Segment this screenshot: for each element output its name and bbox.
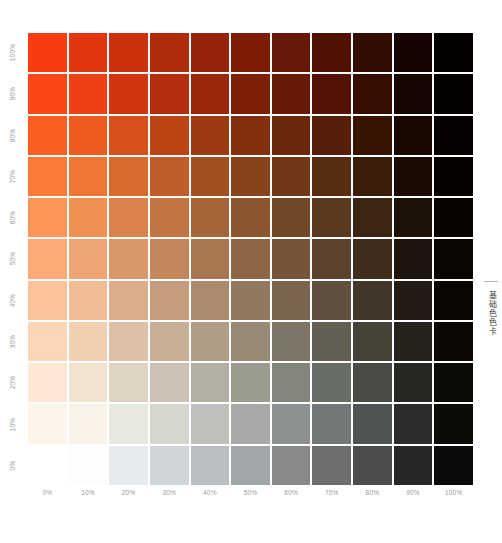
swatch-cell[interactable]: [231, 198, 270, 237]
swatch-cell[interactable]: [394, 74, 433, 113]
swatch-cell[interactable]: [28, 281, 67, 320]
swatch-cell[interactable]: [69, 404, 108, 443]
swatch-cell[interactable]: [109, 322, 148, 361]
swatch-cell[interactable]: [434, 198, 473, 237]
swatch-cell[interactable]: [231, 116, 270, 155]
swatch-cell[interactable]: [272, 116, 311, 155]
swatch-cell[interactable]: [109, 157, 148, 196]
swatch-cell[interactable]: [191, 198, 230, 237]
swatch-cell[interactable]: [394, 322, 433, 361]
swatch-cell[interactable]: [28, 446, 67, 485]
swatch-cell[interactable]: [191, 322, 230, 361]
swatch-cell[interactable]: [109, 363, 148, 402]
swatch-cell[interactable]: [109, 239, 148, 278]
swatch-cell[interactable]: [28, 404, 67, 443]
swatch-cell[interactable]: [353, 74, 392, 113]
swatch-cell[interactable]: [109, 281, 148, 320]
swatch-cell[interactable]: [394, 198, 433, 237]
swatch-cell[interactable]: [69, 363, 108, 402]
swatch-cell[interactable]: [69, 116, 108, 155]
swatch-cell[interactable]: [109, 116, 148, 155]
swatch-cell[interactable]: [434, 157, 473, 196]
swatch-cell[interactable]: [353, 446, 392, 485]
swatch-cell[interactable]: [312, 281, 351, 320]
swatch-cell[interactable]: [231, 446, 270, 485]
swatch-cell[interactable]: [150, 74, 189, 113]
swatch-cell[interactable]: [353, 198, 392, 237]
swatch-cell[interactable]: [150, 116, 189, 155]
swatch-cell[interactable]: [353, 281, 392, 320]
swatch-cell[interactable]: [272, 74, 311, 113]
swatch-cell[interactable]: [353, 116, 392, 155]
swatch-cell[interactable]: [231, 157, 270, 196]
swatch-cell[interactable]: [312, 33, 351, 72]
swatch-cell[interactable]: [191, 281, 230, 320]
swatch-cell[interactable]: [353, 157, 392, 196]
swatch-cell[interactable]: [353, 363, 392, 402]
swatch-cell[interactable]: [150, 281, 189, 320]
swatch-cell[interactable]: [272, 363, 311, 402]
swatch-cell[interactable]: [312, 363, 351, 402]
swatch-cell[interactable]: [69, 74, 108, 113]
swatch-cell[interactable]: [312, 116, 351, 155]
swatch-cell[interactable]: [394, 239, 433, 278]
swatch-cell[interactable]: [353, 322, 392, 361]
swatch-cell[interactable]: [69, 198, 108, 237]
swatch-cell[interactable]: [394, 157, 433, 196]
swatch-cell[interactable]: [353, 33, 392, 72]
swatch-cell[interactable]: [191, 33, 230, 72]
swatch-cell[interactable]: [28, 33, 67, 72]
swatch-cell[interactable]: [312, 239, 351, 278]
swatch-cell[interactable]: [28, 157, 67, 196]
swatch-cell[interactable]: [434, 404, 473, 443]
swatch-cell[interactable]: [69, 322, 108, 361]
swatch-cell[interactable]: [191, 404, 230, 443]
swatch-cell[interactable]: [353, 239, 392, 278]
swatch-cell[interactable]: [434, 74, 473, 113]
swatch-cell[interactable]: [150, 363, 189, 402]
swatch-cell[interactable]: [394, 281, 433, 320]
swatch-cell[interactable]: [28, 198, 67, 237]
swatch-cell[interactable]: [150, 157, 189, 196]
swatch-cell[interactable]: [231, 74, 270, 113]
swatch-cell[interactable]: [272, 239, 311, 278]
swatch-cell[interactable]: [272, 157, 311, 196]
swatch-cell[interactable]: [69, 446, 108, 485]
swatch-cell[interactable]: [394, 446, 433, 485]
swatch-cell[interactable]: [150, 198, 189, 237]
swatch-cell[interactable]: [434, 33, 473, 72]
swatch-cell[interactable]: [272, 446, 311, 485]
swatch-cell[interactable]: [109, 33, 148, 72]
swatch-cell[interactable]: [28, 239, 67, 278]
swatch-cell[interactable]: [231, 33, 270, 72]
swatch-cell[interactable]: [109, 74, 148, 113]
swatch-cell[interactable]: [191, 74, 230, 113]
swatch-cell[interactable]: [272, 404, 311, 443]
swatch-cell[interactable]: [109, 404, 148, 443]
swatch-cell[interactable]: [191, 446, 230, 485]
swatch-cell[interactable]: [353, 404, 392, 443]
swatch-cell[interactable]: [109, 198, 148, 237]
swatch-cell[interactable]: [434, 281, 473, 320]
swatch-cell[interactable]: [150, 239, 189, 278]
swatch-cell[interactable]: [394, 363, 433, 402]
swatch-cell[interactable]: [394, 404, 433, 443]
swatch-cell[interactable]: [150, 322, 189, 361]
swatch-cell[interactable]: [272, 33, 311, 72]
swatch-cell[interactable]: [312, 404, 351, 443]
swatch-cell[interactable]: [272, 322, 311, 361]
swatch-cell[interactable]: [28, 74, 67, 113]
swatch-cell[interactable]: [434, 239, 473, 278]
swatch-cell[interactable]: [394, 33, 433, 72]
swatch-cell[interactable]: [231, 322, 270, 361]
swatch-cell[interactable]: [191, 157, 230, 196]
swatch-cell[interactable]: [69, 281, 108, 320]
swatch-cell[interactable]: [231, 404, 270, 443]
swatch-cell[interactable]: [272, 281, 311, 320]
swatch-cell[interactable]: [69, 33, 108, 72]
swatch-cell[interactable]: [69, 239, 108, 278]
swatch-cell[interactable]: [312, 322, 351, 361]
swatch-cell[interactable]: [231, 281, 270, 320]
swatch-cell[interactable]: [191, 363, 230, 402]
swatch-cell[interactable]: [150, 404, 189, 443]
